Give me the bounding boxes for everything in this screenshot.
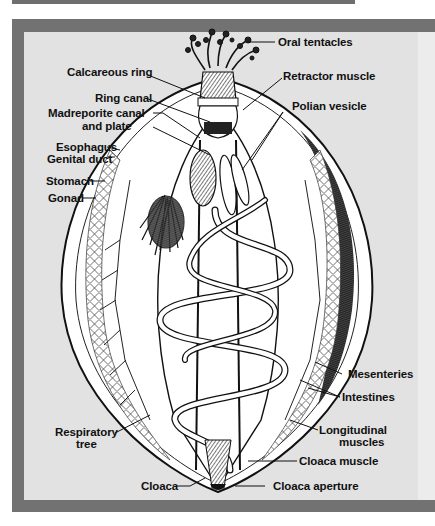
oral-tentacles [186,29,260,70]
label-cloaca-muscle: Cloaca muscle [299,455,378,467]
label-longitudinal-muscles-2: muscles [339,436,384,448]
label-intestines: Intestines [342,391,395,403]
label-esophagus: Esophagus [56,141,117,153]
label-cloaca: Cloaca [141,480,178,492]
stomach [190,150,216,206]
label-gonad: Gonad [48,192,84,204]
label-oral-tentacles: Oral tentacles [278,36,353,48]
label-retractor-muscle: Retractor muscle [283,70,375,82]
label-longitudinal-muscles-1: Longitudinal [319,424,387,436]
label-cloaca-aperture: Cloaca aperture [273,480,358,492]
label-ring-canal: Ring canal [95,92,152,104]
label-genital-duct: Genital duct [47,153,112,165]
label-stomach: Stomach [46,175,94,187]
label-respiratory-tree-1: Respiratory [55,426,118,438]
label-mesenteries: Mesenteries [348,368,413,380]
label-madreporite-canal: Madreporite canal [48,107,145,119]
label-polian-vesicle: Polian vesicle [292,100,367,112]
label-respiratory-tree-2: tree [76,438,97,450]
label-madreporite-plate: and plate [82,120,132,132]
calcareous-ring [198,72,238,138]
label-calcareous-ring: Calcareous ring [67,66,152,78]
